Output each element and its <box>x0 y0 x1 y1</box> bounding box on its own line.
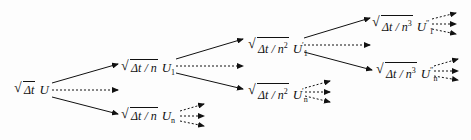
node-root: √ΔtU <box>14 81 49 98</box>
edge-unpp-fan-1 <box>434 59 458 66</box>
node-un-prime: √Δt / n2U′n <box>248 83 308 108</box>
tree-diagram: √ΔtU √Δt / nU1 √Δt / nUn √Δt / n2U′1 √Δt… <box>0 0 471 140</box>
node-variable: Un <box>162 108 175 123</box>
edge-un-fan-3 <box>180 121 204 126</box>
sqrt-radical: √Δt / n2 <box>248 83 289 103</box>
node-variable: U <box>39 82 48 97</box>
sqrt-radical: √Δt / n3 <box>372 15 413 35</box>
edge-unp-fan-3 <box>305 96 330 102</box>
edge-u1-to-unp <box>176 73 243 89</box>
edge-u1pp-fan-3 <box>432 29 456 34</box>
node-variable: U″n <box>421 66 438 81</box>
edge-u1p-to-unpp <box>304 52 372 70</box>
edge-u1-to-u1p <box>176 39 243 59</box>
node-variable: U1 <box>162 60 175 75</box>
edge-unpp-fan-3 <box>434 76 458 80</box>
node-u1: √Δt / nU1 <box>121 59 175 81</box>
node-variable: U′1 <box>293 41 308 56</box>
sqrt-radical: √Δt <box>14 81 35 98</box>
node-variable: U″1 <box>417 19 434 34</box>
sqrt-radical: √Δt / n3 <box>376 62 417 82</box>
sqrt-radical: √Δt / n <box>121 107 158 124</box>
node-un-double-prime: √Δt / n3U″n <box>376 62 437 87</box>
edge-root-to-u1 <box>52 64 118 83</box>
node-variable: U′n <box>293 87 308 102</box>
edge-unp-fan-1 <box>305 81 330 88</box>
sqrt-radical: √Δt / n2 <box>248 37 289 57</box>
edge-u1p-to-u1pp <box>304 18 370 38</box>
node-u1-prime: √Δt / n2U′1 <box>248 37 308 62</box>
sqrt-radical: √Δt / n <box>121 59 158 76</box>
node-un: √Δt / nUn <box>121 107 175 129</box>
edge-u1pp-fan-1 <box>432 13 456 19</box>
edge-un-fan-1 <box>180 104 204 111</box>
edge-root-to-un <box>52 97 118 114</box>
node-u1-double-prime: √Δt / n3U″1 <box>372 15 433 40</box>
